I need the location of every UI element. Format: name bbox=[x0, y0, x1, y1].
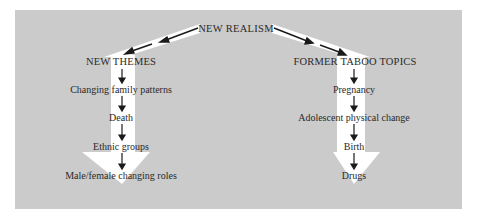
list-item: Death bbox=[109, 113, 133, 123]
list-item: Adolescent physical change bbox=[298, 113, 410, 123]
list-item: Ethnic groups bbox=[93, 142, 149, 152]
left-band-arrow bbox=[104, 24, 200, 57]
branch-heading-former-taboo-topics: FORMER TABOO TOPICS bbox=[293, 57, 416, 68]
list-item: Drugs bbox=[342, 171, 366, 181]
right-band-arrow bbox=[272, 24, 370, 57]
root-to-left-arrows bbox=[125, 28, 198, 54]
branch-heading-new-themes: NEW THEMES bbox=[86, 57, 156, 68]
root-node-new-realism: NEW REALISM bbox=[198, 24, 274, 35]
list-item: Birth bbox=[344, 142, 365, 152]
list-item: Pregnancy bbox=[333, 85, 375, 95]
list-item: Male/female changing roles bbox=[65, 171, 177, 181]
list-item: Changing family patterns bbox=[70, 85, 172, 95]
root-to-right-arrows bbox=[274, 28, 346, 55]
